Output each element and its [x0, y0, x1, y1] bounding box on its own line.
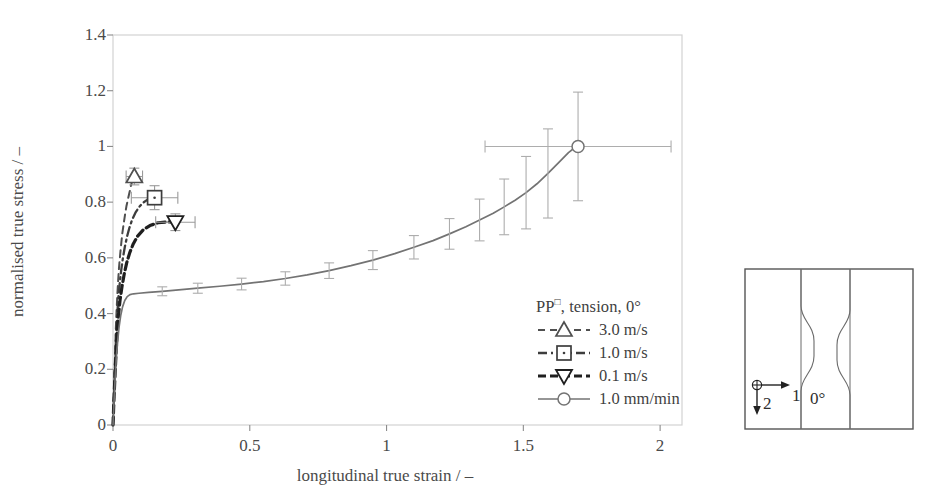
legend-label-2: 0.1 m/s [599, 366, 648, 386]
legend-entry-3[interactable]: 1.0 mm/min [536, 388, 736, 411]
y-tick-label-2: 0.4 [58, 304, 106, 324]
y-tick-label-4: 0.8 [58, 192, 106, 212]
figure-container: 00.20.40.60.811.21.4 00.511.52 normalise… [0, 0, 931, 503]
legend-label-0: 3.0 m/s [599, 320, 648, 340]
x-tick-label-0: 0 [109, 436, 118, 456]
y-tick-label-1: 0.2 [58, 359, 106, 379]
x-tick-label-2: 1 [382, 436, 391, 456]
x-tick-label-3: 1.5 [513, 436, 534, 456]
legend-entry-0[interactable]: 3.0 m/s [536, 319, 736, 342]
y-tick-label-6: 1.2 [58, 81, 106, 101]
specimen-angle-label: 0° [810, 389, 825, 409]
legend-title: PP□, tension, 0° [536, 296, 736, 317]
y-axis-title: normalised true stress / – [8, 147, 28, 317]
legend-label-3: 1.0 mm/min [599, 389, 680, 409]
y-tick-label-5: 1 [58, 136, 106, 156]
specimen-inset: 1 2 0° [744, 268, 914, 430]
legend-sample-square-icon [536, 343, 592, 363]
x-axis-title: longitudinal true strain / – [297, 466, 474, 486]
series-1-square-dot [153, 196, 156, 199]
series-3-circle-marker [572, 140, 584, 152]
legend-entry-2[interactable]: 0.1 m/s [536, 365, 736, 388]
y-tick-label-3: 0.6 [58, 248, 106, 268]
legend-label-1: 1.0 m/s [599, 343, 648, 363]
x-tick-label-4: 2 [656, 436, 665, 456]
legend-entries: 3.0 m/s1.0 m/s0.1 m/s1.0 mm/min [536, 319, 736, 411]
legend-title-condition: , tension, 0° [561, 297, 641, 316]
y-tick-label-0: 0 [58, 415, 106, 435]
legend-entry-1[interactable]: 1.0 m/s [536, 342, 736, 365]
x-tick-label-1: 0.5 [239, 436, 260, 456]
legend-sample-triangle-up-icon [536, 320, 592, 340]
legend-sample-circle-icon [536, 389, 592, 409]
axis-1-label: 1 [792, 386, 801, 406]
legend-title-material: PP [536, 297, 555, 316]
chart-legend: PP□, tension, 0° 3.0 m/s1.0 m/s0.1 m/s1.… [536, 296, 736, 411]
y-tick-label-7: 1.4 [58, 25, 106, 45]
axis-2-label: 2 [763, 394, 772, 414]
legend-sample-triangle-down-icon [536, 366, 592, 386]
